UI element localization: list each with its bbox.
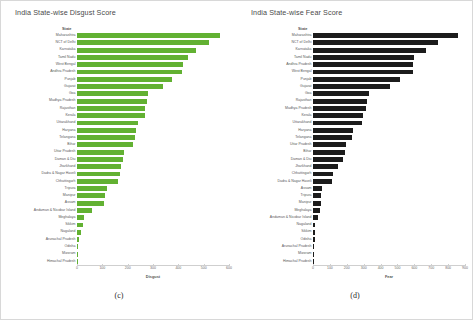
- category-label: Haryana: [298, 129, 311, 133]
- tick-label: 200: [344, 266, 350, 270]
- bar-row: Karnataka: [313, 47, 465, 54]
- category-label: Nagaland: [61, 230, 76, 234]
- bar: [77, 135, 135, 140]
- chart-title-fear: India State-wise Fear Score: [251, 8, 342, 17]
- bar-row: Manipur: [313, 199, 465, 206]
- bar: [313, 99, 367, 104]
- bar: [77, 62, 183, 67]
- bar-row: Arunachal Pradesh: [77, 236, 229, 243]
- bar: [77, 106, 145, 111]
- bar-row: Rajasthan: [77, 105, 229, 112]
- bar-rows-fear: MaharashtraNCT of DelhiKarnatakaTamil Na…: [313, 32, 465, 265]
- category-label: Andaman & Nicobar Island: [270, 216, 312, 220]
- tick-label: 100: [99, 266, 105, 270]
- category-label: Telangana: [59, 136, 75, 140]
- category-label: Karnataka: [60, 48, 76, 52]
- bar: [313, 128, 353, 133]
- bar-row: Sikkim: [313, 229, 465, 236]
- bar-row: Dadra & Nagar Haveli: [77, 170, 229, 177]
- category-label: NCT of Delhi: [292, 41, 312, 45]
- bar-row: Rajasthan: [313, 98, 465, 105]
- category-label: Madhya Pradesh: [285, 107, 311, 111]
- tick-label: 600: [226, 266, 232, 270]
- bar-row: Chhattisgarh: [77, 178, 229, 185]
- category-label: Bihar: [303, 150, 311, 154]
- bar-row: Meghalaya: [77, 214, 229, 221]
- bar-row: Punjab: [313, 76, 465, 83]
- bar-row: Mizoram: [77, 250, 229, 257]
- bar-row: Odisha: [77, 243, 229, 250]
- category-label: Telangana: [295, 136, 311, 140]
- tick-label: 500: [395, 266, 401, 270]
- bar-row: Goa: [77, 90, 229, 97]
- bar-row: Andhra Pradesh: [313, 61, 465, 68]
- category-label: Meghalaya: [58, 216, 75, 220]
- bar-row: Uttar Pradesh: [77, 149, 229, 156]
- bar: [313, 142, 346, 147]
- bar-row: Jharkhand: [313, 163, 465, 170]
- bar: [313, 252, 314, 257]
- bar: [313, 215, 318, 220]
- bar-row: NCT of Delhi: [77, 39, 229, 46]
- bar: [313, 55, 414, 60]
- category-label: Assam: [301, 187, 312, 191]
- category-label: Goa: [69, 92, 76, 96]
- category-label: Haryana: [62, 129, 75, 133]
- category-label: Goa: [305, 92, 312, 96]
- bar: [77, 252, 78, 257]
- bar: [77, 193, 105, 198]
- bar-row: Bihar: [313, 149, 465, 156]
- bar-row: Assam: [313, 185, 465, 192]
- bar: [313, 157, 343, 162]
- category-label: NCT of Delhi: [56, 41, 76, 45]
- category-label: Nagaland: [297, 223, 312, 227]
- category-label: Odisha: [300, 238, 311, 242]
- panel-fear: India State-wise Fear Score State Mahara…: [237, 1, 473, 320]
- bar-row: Daman & Diu: [313, 156, 465, 163]
- x-axis-label-disgust: Disgust: [77, 274, 229, 279]
- bar: [313, 193, 321, 198]
- category-label: Assam: [65, 201, 76, 205]
- tick-label: 400: [378, 266, 384, 270]
- bar-row: Odisha: [313, 236, 465, 243]
- bar-row: Daman & Diu: [77, 156, 229, 163]
- bar-row: Himachal Pradesh: [313, 258, 465, 265]
- bar: [77, 150, 124, 155]
- bar: [313, 40, 438, 45]
- bar: [313, 244, 314, 249]
- category-label: Maharashtra: [56, 34, 76, 38]
- category-label: Himachal Pradesh: [47, 260, 76, 264]
- tick-label: 300: [361, 266, 367, 270]
- category-label: Uttar Pradesh: [290, 143, 312, 147]
- bar: [313, 179, 332, 184]
- bar-rows-disgust: MaharashtraNCT of DelhiKarnatakaTamil Na…: [77, 32, 229, 265]
- bar: [77, 172, 120, 177]
- bar: [313, 135, 352, 140]
- category-label: Karnataka: [296, 48, 312, 52]
- y-axis-label-fear: State: [298, 26, 308, 31]
- tick-label: 100: [327, 266, 333, 270]
- bar: [77, 142, 133, 147]
- bar-row: Kerala: [313, 112, 465, 119]
- bar: [77, 179, 118, 184]
- category-label: Arunachal Pradesh: [282, 245, 312, 249]
- bar: [77, 215, 84, 220]
- tick-label: 800: [445, 266, 451, 270]
- category-label: Madhya Pradesh: [49, 99, 75, 103]
- tick-label: 900: [462, 266, 468, 270]
- category-label: Mizoram: [62, 252, 75, 256]
- tick-label: 0: [76, 266, 78, 270]
- tick-label: 500: [201, 266, 207, 270]
- bar: [313, 172, 333, 177]
- chart-title-disgust: India State-wise Disgust Score: [15, 8, 116, 17]
- bar: [313, 48, 426, 53]
- bar-row: Bihar: [77, 141, 229, 148]
- bar: [313, 164, 338, 169]
- category-label: West Bengal: [292, 70, 312, 74]
- category-label: Himachal Pradesh: [283, 260, 312, 264]
- bar-row: Meghalaya: [313, 207, 465, 214]
- category-label: Punjab: [301, 78, 312, 82]
- bar: [77, 40, 209, 45]
- bar-row: Telangana: [313, 134, 465, 141]
- category-label: Gujarat: [300, 85, 311, 89]
